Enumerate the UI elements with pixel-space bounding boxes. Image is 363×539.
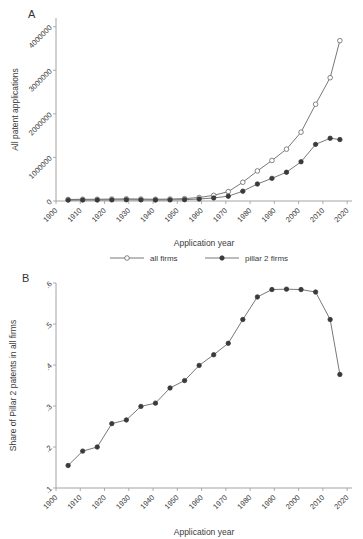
data-point-pillar2 — [299, 287, 303, 291]
data-point-pillar2 — [182, 378, 186, 382]
data-point-pillar2 — [255, 182, 259, 186]
data-point-pillar2 — [139, 404, 143, 408]
panel-b-x-tick-label: 1930 — [114, 493, 132, 511]
panel-a-x-tick-label: 1950 — [163, 206, 181, 224]
panel-a: A 01000000200000030000004000000190019101… — [0, 0, 363, 270]
panel-b-series-line — [68, 289, 340, 465]
data-point-pillar2 — [197, 197, 201, 201]
panel-a-y-tick-label: 1000000 — [27, 154, 54, 181]
panel-a-letter: A — [28, 8, 36, 20]
data-point-pillar2 — [270, 176, 274, 180]
data-point-pillar2 — [241, 189, 245, 193]
panel-b-x-tick-label: 2010 — [308, 493, 326, 511]
panel-a-x-axis-title: Application year — [174, 238, 235, 248]
data-point-pillar2 — [124, 418, 128, 422]
data-point-pillar2 — [328, 136, 332, 140]
panel-a-series-line — [68, 138, 340, 200]
panel-b-y-axis-title: Share of Pillar 2 patents in all firms — [8, 320, 18, 451]
panel-a-y-tick-label: 2000000 — [27, 110, 54, 137]
data-point-all-firms — [338, 38, 343, 43]
panel-b-x-tick-label: 1980 — [235, 493, 253, 511]
data-point-pillar2 — [241, 317, 245, 321]
data-point-pillar2 — [299, 160, 303, 164]
data-point-pillar2 — [139, 198, 143, 202]
data-point-pillar2 — [66, 198, 70, 202]
data-point-pillar2 — [182, 197, 186, 201]
panel-b-x-axis-title: Application year — [174, 527, 235, 537]
data-point-pillar2 — [313, 142, 317, 146]
data-point-pillar2 — [153, 401, 157, 405]
panel-a-x-tick-label: 1990 — [260, 206, 278, 224]
figure-container: A 01000000200000030000004000000190019101… — [0, 0, 363, 539]
panel-a-plot: 0100000020000003000000400000019001910192… — [0, 0, 363, 270]
panel-a-x-tick-label: 2010 — [308, 206, 326, 224]
panel-b-x-tick-label: 1950 — [163, 493, 181, 511]
panel-b-x-tick-label: 2020 — [332, 493, 350, 511]
data-point-pillar2 — [284, 287, 288, 291]
panel-a-y-tick-label: 3000000 — [27, 67, 54, 94]
data-point-pillar2 — [313, 290, 317, 294]
data-point-all-firms — [255, 169, 260, 174]
panel-a-x-tick-label: 2000 — [284, 206, 302, 224]
data-point-pillar2 — [212, 196, 216, 200]
data-point-pillar2 — [284, 170, 288, 174]
panel-a-x-tick-label: 2020 — [332, 206, 350, 224]
data-point-pillar2 — [226, 194, 230, 198]
data-point-pillar2 — [80, 449, 84, 453]
panel-b-x-tick-label: 1960 — [187, 493, 205, 511]
data-point-pillar2 — [153, 198, 157, 202]
panel-a-x-tick-label: 1960 — [187, 206, 205, 224]
data-point-all-firms — [241, 180, 246, 185]
data-point-all-firms — [284, 147, 289, 152]
panel-a-x-tick-label: 1980 — [235, 206, 253, 224]
panel-a-x-tick-label: 1940 — [138, 206, 156, 224]
data-point-pillar2 — [66, 463, 70, 467]
data-point-pillar2 — [212, 353, 216, 357]
data-point-pillar2 — [124, 198, 128, 202]
panel-a-y-tick-label: 4000000 — [27, 23, 54, 50]
panel-a-x-tick-label: 1920 — [90, 206, 108, 224]
panel-b-plot: .1.2.3.4.5.61900191019201930194019501960… — [0, 262, 363, 539]
panel-b-x-tick-label: 1940 — [138, 493, 156, 511]
panel-b-x-tick-label: 1970 — [211, 493, 229, 511]
panel-b-letter: B — [22, 272, 30, 284]
panel-b-x-tick-label: 2000 — [284, 493, 302, 511]
panel-b-y-tick-label: .5 — [43, 320, 54, 331]
panel-b-y-tick-label: .2 — [43, 443, 54, 454]
data-point-pillar2 — [338, 137, 342, 141]
data-point-pillar2 — [80, 198, 84, 202]
panel-b-y-tick-label: .6 — [43, 279, 54, 290]
data-point-all-firms — [226, 189, 231, 194]
data-point-pillar2 — [110, 198, 114, 202]
data-point-pillar2 — [168, 198, 172, 202]
panel-a-x-tick-label: 1900 — [41, 206, 59, 224]
panel-b-x-tick-label: 1910 — [65, 493, 83, 511]
panel-b-x-tick-label: 1920 — [90, 493, 108, 511]
panel-a-y-axis-title: All patent applications — [10, 68, 20, 151]
panel-a-x-tick-label: 1970 — [211, 206, 229, 224]
data-point-pillar2 — [168, 386, 172, 390]
panel-b-x-tick-label: 1990 — [260, 493, 278, 511]
panel-a-y-tick-label: 0 — [45, 197, 54, 206]
legend-marker-all-firms — [125, 256, 130, 261]
legend-marker-pillar2 — [220, 256, 224, 260]
data-point-pillar2 — [328, 317, 332, 321]
panel-a-x-tick-label: 1910 — [65, 206, 83, 224]
data-point-pillar2 — [255, 295, 259, 299]
panel-b-y-tick-label: .3 — [43, 402, 54, 413]
panel-a-x-tick-label: 1930 — [114, 206, 132, 224]
panel-b: B .1.2.3.4.5.619001910192019301940195019… — [0, 262, 363, 539]
data-point-pillar2 — [95, 445, 99, 449]
data-point-all-firms — [328, 75, 333, 80]
panel-a-series-line — [68, 41, 340, 200]
panel-b-x-tick-label: 1900 — [41, 493, 59, 511]
data-point-pillar2 — [95, 198, 99, 202]
data-point-pillar2 — [270, 287, 274, 291]
data-point-pillar2 — [338, 372, 342, 376]
data-point-pillar2 — [110, 421, 114, 425]
data-point-pillar2 — [226, 341, 230, 345]
data-point-pillar2 — [197, 363, 201, 367]
data-point-all-firms — [299, 130, 304, 135]
data-point-all-firms — [313, 102, 318, 107]
panel-b-y-tick-label: .4 — [43, 361, 54, 372]
